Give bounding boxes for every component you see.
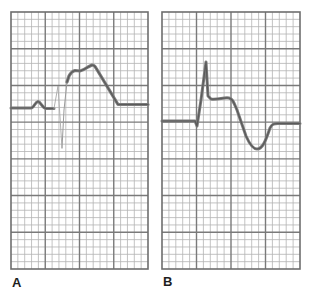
panel-a-label: A xyxy=(12,276,21,289)
panel-b-label: B xyxy=(163,275,172,288)
ecg-figure xyxy=(0,0,310,294)
panel-b-grid xyxy=(162,12,300,269)
panel-a-grid xyxy=(11,12,148,269)
figure-background xyxy=(0,0,310,294)
panel-b-ecg-strip xyxy=(162,12,300,269)
panel-a-ecg-strip xyxy=(11,12,148,269)
